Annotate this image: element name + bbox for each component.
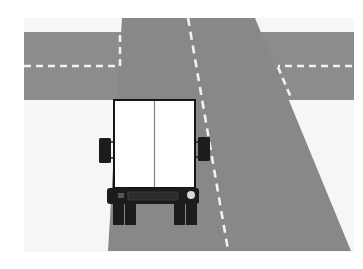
right-inner-wheel (174, 203, 185, 225)
road-scene (0, 0, 363, 269)
left-inner-wheel (125, 203, 136, 225)
left-outer-wheel (113, 203, 124, 225)
license-plate-area (128, 192, 178, 200)
right-outer-wheel (186, 203, 197, 225)
right-mirror (198, 137, 210, 161)
right-tail-light (187, 191, 195, 199)
left-tail-light (118, 193, 124, 198)
left-mirror (99, 138, 111, 163)
